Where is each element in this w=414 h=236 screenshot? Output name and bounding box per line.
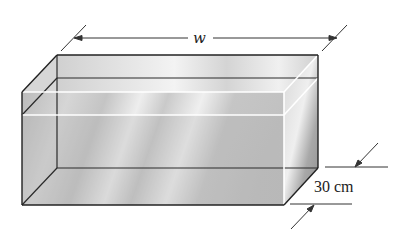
width-label: w	[193, 29, 206, 47]
tank-diagram: w 30 cm	[0, 0, 414, 236]
water-body	[22, 115, 284, 205]
depth-label: 30 cm	[314, 178, 354, 195]
